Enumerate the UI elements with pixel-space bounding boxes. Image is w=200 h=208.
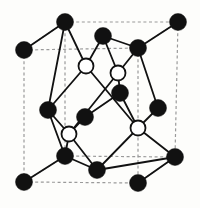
cell-edge-front-face-right <box>175 22 178 157</box>
open-atom-tetrahedral-site-lower-left <box>62 127 77 142</box>
filled-atom-corner-back-top-right <box>130 40 147 57</box>
filled-atom-face-left-center <box>40 102 57 119</box>
filled-atom-face-right-center <box>150 100 167 117</box>
filled-atom-face-top-center <box>95 28 112 45</box>
bond-A2-A6 <box>48 22 65 110</box>
cell-edge-back-face-top <box>24 48 138 50</box>
crystal-structure-figure <box>0 0 200 208</box>
open-atom-tetrahedral-site-upper-right <box>111 66 126 81</box>
filled-atom-corner-back-top-left <box>16 42 33 59</box>
bond-B2-B3 <box>69 73 118 134</box>
open-atom-tetrahedral-site-lower-right <box>131 121 146 136</box>
filled-atom-interior-left <box>77 109 94 126</box>
filled-atom-corner-back-bottom-right <box>130 175 147 192</box>
open-atom-tetrahedral-site-upper-left <box>79 59 94 74</box>
filled-atom-corner-front-bottom-left <box>57 148 74 165</box>
lattice-canvas <box>0 0 200 208</box>
filled-atom-corner-front-top-right <box>170 14 187 31</box>
bond-A4-A9 <box>138 48 158 108</box>
filled-atom-corner-front-top-left <box>57 14 74 31</box>
open-atom-group <box>62 59 146 142</box>
cell-edge-front-face-bottom <box>65 156 175 157</box>
filled-atom-interior-right <box>112 85 129 102</box>
filled-atom-corner-back-bottom-left <box>16 174 33 191</box>
filled-atom-face-bottom-center <box>89 162 106 179</box>
filled-atom-corner-front-bottom-right <box>167 149 184 166</box>
cell-edge-back-face-bottom <box>24 182 138 183</box>
filled-atom-group <box>16 14 187 192</box>
